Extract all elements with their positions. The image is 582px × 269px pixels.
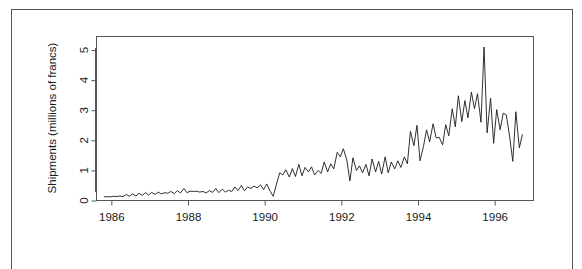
y-axis-tick-label: 4 — [78, 76, 90, 83]
x-axis: 198619881990199219941996 — [99, 201, 508, 223]
x-axis-tick-label: 1992 — [329, 211, 355, 223]
data-series-shipments — [104, 47, 523, 197]
y-axis-tick-label: 5 — [78, 47, 90, 53]
plot-box-frame — [97, 37, 534, 201]
x-axis-tick-label: 1988 — [176, 211, 202, 223]
x-axis-tick-label: 1994 — [406, 211, 432, 223]
y-axis-tick-label: 3 — [78, 107, 90, 113]
y-axis: 012345 — [78, 47, 97, 204]
y-axis-tick-label: 2 — [78, 137, 90, 143]
x-axis-tick-label: 1996 — [482, 211, 508, 223]
x-axis-tick-label: 1990 — [252, 211, 278, 223]
y-axis-tick-label: 0 — [78, 197, 90, 203]
y-axis-tick-label: 1 — [78, 167, 90, 173]
y-axis-label: Shipments (millions of francs) — [46, 42, 58, 193]
x-axis-tick-label: 1986 — [99, 211, 125, 223]
